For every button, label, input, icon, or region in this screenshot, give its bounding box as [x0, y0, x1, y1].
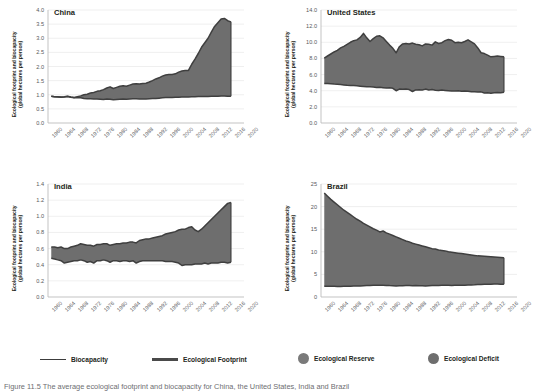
y-axis-label-text-india: Ecological footprint and biocapacity (gl… [11, 205, 24, 291]
x-tick-label: 2020 [520, 126, 533, 139]
plot-area-india: 0.00.20.40.60.81.01.21.4 [26, 180, 244, 307]
y-tick-label: 0.0 [299, 120, 317, 126]
y-axis-label-text-brazil: Ecological footprint and biocapacity (gl… [284, 205, 297, 291]
y-tick-label: 4.0 [299, 88, 317, 94]
chart-legend: Biocapacity Ecological Footprint Ecologi… [0, 352, 546, 374]
y-tick-label: 0.8 [26, 229, 44, 235]
y-tick-label: 1.4 [26, 181, 44, 187]
legend-item-ecological-reserve: Ecological Reserve [298, 353, 374, 364]
panel-india: Ecological footprint and biocapacity (gl… [0, 174, 273, 348]
y-tick-label: 3.0 [26, 35, 44, 41]
y-tick-label: 4.0 [26, 7, 44, 13]
y-tick-label: 0.6 [26, 246, 44, 252]
panel-united-states: Ecological footprint and biocapacity (gl… [273, 0, 546, 174]
y-axis-label-india: Ecological footprint and biocapacity (gl… [8, 174, 26, 322]
y-tick-label: 2.0 [26, 64, 44, 70]
legend-label-ecological-deficit: Ecological Deficit [444, 355, 499, 362]
x-tick-label: 2020 [247, 126, 260, 139]
legend-label-biocapacity: Biocapacity [71, 356, 108, 363]
biocapacity-line-swatch-icon [40, 359, 66, 361]
panel-china: Ecological footprint and biocapacity (gl… [0, 0, 273, 174]
ecological-reserve-area [324, 193, 504, 286]
y-tick-label: 0.5 [26, 106, 44, 112]
y-tick-label: 20 [299, 204, 317, 210]
x-tick-label: 2020 [247, 300, 260, 313]
x-tick-label: 2020 [520, 300, 533, 313]
deficit-circle-swatch-icon [428, 353, 439, 364]
y-tick-label: 1.2 [26, 197, 44, 203]
ecological-deficit-area [51, 18, 231, 99]
y-tick-label: 1.0 [26, 213, 44, 219]
legend-item-ecological-deficit: Ecological Deficit [428, 353, 499, 364]
panel-title-united-states: United States [327, 8, 376, 17]
figure-caption: Figure 11.5 The average ecological footp… [4, 381, 542, 392]
legend-item-biocapacity: Biocapacity [40, 356, 108, 363]
chart-svg-india [26, 180, 244, 303]
y-tick-label: 2.5 [26, 49, 44, 55]
chart-svg-china [26, 6, 244, 129]
plot-area-china: 0.00.51.01.52.02.53.03.54.0 [26, 6, 244, 133]
panel-title-brazil: Brazil [327, 182, 348, 191]
y-axis-label-china: Ecological footprint and biocapacity (gl… [8, 0, 26, 148]
y-tick-label: 0.0 [26, 294, 44, 300]
ecological-deficit-area [51, 203, 231, 266]
y-tick-label: 1.0 [26, 92, 44, 98]
y-tick-label: 0.2 [26, 278, 44, 284]
y-tick-label: 0 [299, 294, 317, 300]
reserve-circle-swatch-icon [298, 353, 309, 364]
y-tick-label: 6.0 [299, 72, 317, 78]
y-tick-label: 8.0 [299, 55, 317, 61]
plot-area-brazil: 0510152025 [299, 180, 517, 307]
y-tick-label: 15 [299, 226, 317, 232]
y-axis-label-text-united-states: Ecological footprint and biocapacity (gl… [284, 31, 297, 117]
y-tick-label: 3.5 [26, 21, 44, 27]
chart-panels: Ecological footprint and biocapacity (gl… [0, 0, 546, 348]
y-tick-label: 1.5 [26, 78, 44, 84]
y-axis-label-united-states: Ecological footprint and biocapacity (gl… [281, 0, 299, 148]
y-tick-label: 0.0 [26, 120, 44, 126]
y-tick-label: 2.0 [299, 104, 317, 110]
y-tick-label: 10.0 [299, 39, 317, 45]
legend-label-ecological-reserve: Ecological Reserve [314, 355, 374, 362]
y-tick-label: 10 [299, 249, 317, 255]
y-tick-label: 12.0 [299, 23, 317, 29]
legend-item-ecological-footprint: Ecological Footprint [152, 356, 247, 363]
legend-label-ecological-footprint: Ecological Footprint [183, 356, 247, 363]
panel-title-india: India [54, 182, 72, 191]
panel-brazil: Ecological footprint and biocapacity (gl… [273, 174, 546, 348]
chart-svg-united-states [299, 6, 517, 129]
panel-title-china: China [54, 8, 75, 17]
chart-svg-brazil [299, 180, 517, 303]
figure-container: Ecological footprint and biocapacity (gl… [0, 0, 546, 392]
footprint-line-swatch-icon [152, 358, 178, 361]
y-axis-label-text-china: Ecological footprint and biocapacity (gl… [11, 31, 24, 117]
plot-area-united-states: 0.02.04.06.08.010.012.014.0 [299, 6, 517, 133]
y-tick-label: 25 [299, 181, 317, 187]
y-axis-label-brazil: Ecological footprint and biocapacity (gl… [281, 174, 299, 322]
y-tick-label: 14.0 [299, 7, 317, 13]
y-tick-label: 5 [299, 271, 317, 277]
y-tick-label: 0.4 [26, 262, 44, 268]
